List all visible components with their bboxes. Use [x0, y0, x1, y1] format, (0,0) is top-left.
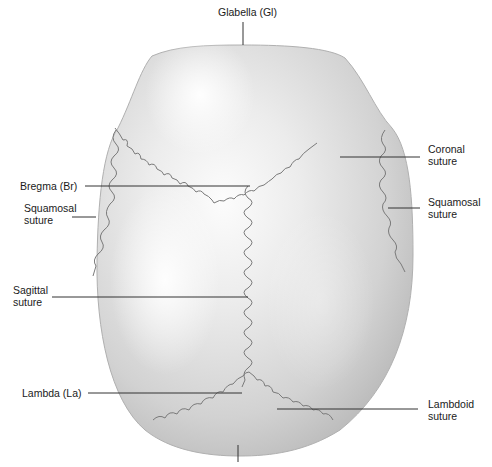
skull-superior-view-diagram: Glabella (Gl) Coronal suture Bregma (Br)…: [0, 0, 492, 467]
label-glabella: Glabella (Gl): [218, 6, 277, 18]
label-coronal-suture: Coronal suture: [428, 143, 465, 167]
label-lambdoid-suture: Lambdoid suture: [428, 398, 474, 422]
label-lambda: Lambda (La): [22, 387, 82, 399]
label-bregma: Bregma (Br): [20, 180, 77, 192]
label-squamosal-suture-left: Squamosal suture: [24, 202, 77, 226]
label-squamosal-suture-right: Squamosal suture: [428, 196, 481, 220]
label-sagittal-suture: Sagittal suture: [13, 284, 48, 308]
